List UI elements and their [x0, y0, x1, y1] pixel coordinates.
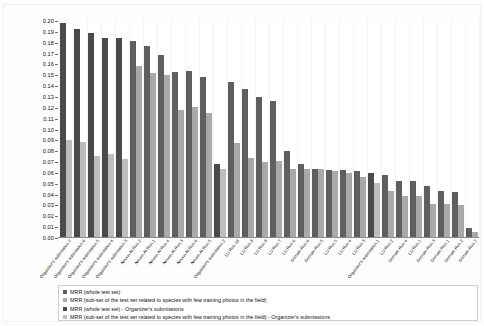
y-axis-tick-mark [55, 238, 58, 239]
y-axis-tick-label: 0.20 [43, 18, 54, 24]
y-axis-tick-label: 0.01 [43, 224, 54, 230]
bar[interactable] [60, 23, 66, 238]
legend-label: MRR (sub-set of the test set related to … [70, 314, 330, 320]
bar-group [353, 21, 367, 238]
y-axis-tick-mark [55, 108, 58, 109]
chart-figure: 0.200.190.180.170.160.150.140.130.120.11… [0, 0, 484, 326]
y-axis-tick-mark [55, 97, 58, 98]
y-axis-tick-label: 0.03 [43, 202, 54, 208]
bar-group [437, 21, 451, 238]
gridline [479, 21, 480, 238]
bar-group [59, 21, 73, 238]
y-axis-tick-label: 0.18 [43, 40, 54, 46]
legend-label: MRR (whole test set) - Organizer's submi… [70, 306, 184, 312]
x-axis-tick-label-text: LU Run 4 [338, 239, 353, 256]
legend-item[interactable]: MRR (whole test set) [63, 288, 473, 296]
y-axis-tick-mark [55, 86, 58, 87]
legend-swatch-icon [63, 307, 67, 311]
legend-item[interactable]: MRR (sub-set of the test set related to … [63, 296, 473, 304]
bar-group [73, 21, 87, 238]
bar[interactable] [186, 71, 192, 238]
y-axis-tick-label: 0.17 [43, 51, 54, 57]
y-axis-tick-mark [55, 130, 58, 131]
legend-swatch-icon [63, 290, 67, 294]
bar-group [269, 21, 283, 238]
x-axis-tick-label-text: LU Run 9 [240, 239, 255, 256]
y-axis-tick-mark [55, 205, 58, 206]
x-axis-tick-label-text: LU Run 8 [254, 239, 269, 256]
legend-item[interactable]: MRR (sub-set of the test set related to … [63, 313, 473, 321]
y-axis-tick-mark [55, 43, 58, 44]
y-axis-tick-mark [55, 32, 58, 33]
y-axis-tick-label: 0.09 [43, 137, 54, 143]
y-axis-tick-mark [55, 195, 58, 196]
y-axis-tick-mark [55, 75, 58, 76]
x-axis-tick-label-text: LU Run 7 [268, 239, 283, 256]
y-axis: 0.200.190.180.170.160.150.140.130.120.11… [0, 21, 59, 238]
y-axis-tick-label: 0.05 [43, 181, 54, 187]
x-axis-tick-label-text: LU Run 5 [324, 239, 339, 256]
bar[interactable] [388, 191, 394, 238]
y-axis-tick-label: 0.14 [43, 83, 54, 89]
bar[interactable] [164, 75, 170, 238]
y-axis-tick-label: 0.10 [43, 127, 54, 133]
legend-item[interactable]: MRR (whole test set) - Organizer's submi… [63, 305, 473, 313]
y-axis-tick-label: 0.06 [43, 170, 54, 176]
y-axis-tick-mark [55, 140, 58, 141]
legend-label: MRR (whole test set) [70, 289, 120, 295]
bar-group [451, 21, 465, 238]
bar[interactable] [66, 140, 72, 238]
legend-swatch-icon [63, 298, 67, 302]
y-axis-tick-mark [55, 216, 58, 217]
y-axis-tick-label: 0.19 [43, 29, 54, 35]
bar[interactable] [74, 29, 80, 238]
y-axis-tick-mark [55, 151, 58, 152]
bar-group [255, 21, 269, 238]
y-axis-tick-label: 0.15 [43, 72, 54, 78]
y-axis-tick-label: 0.04 [43, 192, 54, 198]
bar[interactable] [172, 72, 178, 238]
y-axis-tick-mark [55, 21, 58, 22]
bar-group [465, 21, 479, 238]
y-axis-tick-mark [55, 184, 58, 185]
bar[interactable] [256, 97, 262, 238]
bar-group [367, 21, 381, 238]
y-axis-tick-mark [55, 64, 58, 65]
y-axis-tick-label: 0.11 [43, 116, 54, 122]
y-axis-tick-label: 0.13 [43, 94, 54, 100]
y-axis-tick-mark [55, 173, 58, 174]
bar[interactable] [158, 55, 164, 238]
bar[interactable] [150, 73, 156, 238]
bar-group [171, 21, 185, 238]
chart-legend: MRR (whole test set)MRR (sub-set of the … [58, 285, 478, 321]
y-axis-tick-label: 0.08 [43, 148, 54, 154]
bar-group [185, 21, 199, 238]
y-axis-tick-label: 0.00 [43, 235, 54, 241]
x-axis-tick-label-text: LU Run 10 [224, 239, 240, 258]
bar-group [213, 21, 227, 238]
bar[interactable] [200, 77, 206, 238]
y-axis-tick-mark [55, 162, 58, 163]
x-axis-tick-labels: Organizer's submission 7Organizer's subm… [59, 239, 479, 285]
y-axis-tick-label: 0.07 [43, 159, 54, 165]
y-axis-tick-mark [55, 227, 58, 228]
legend-swatch-icon [63, 315, 67, 319]
bar-group [227, 21, 241, 238]
y-axis-tick-mark [55, 119, 58, 120]
y-axis-tick-label: 0.16 [43, 61, 54, 67]
bar-group [325, 21, 339, 238]
bar[interactable] [430, 204, 436, 238]
bar-group [297, 21, 311, 238]
bar-group [409, 21, 423, 238]
y-axis-tick-label: 0.02 [43, 213, 54, 219]
bar-group [381, 21, 395, 238]
y-axis-tick-label: 0.12 [43, 105, 54, 111]
legend-label: MRR (sub-set of the test set related to … [70, 297, 267, 303]
bar-group [311, 21, 325, 238]
bar-group [283, 21, 297, 238]
bar-group [157, 21, 171, 238]
bar[interactable] [270, 101, 276, 238]
bar[interactable] [228, 82, 234, 238]
y-axis-tick-mark [55, 54, 58, 55]
bar-group [339, 21, 353, 238]
